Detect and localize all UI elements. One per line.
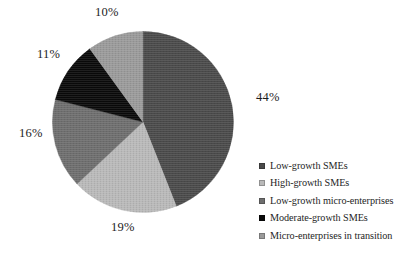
legend-item-label: Moderate-growth SMEs: [270, 213, 368, 223]
pie-slice-group: [52, 32, 233, 213]
legend-swatch-icon: [259, 198, 265, 204]
legend-item-moderate-growth-smes[interactable]: Moderate-growth SMEs: [259, 210, 409, 228]
chart-legend: Low-growth SMEs High-growth SMEs Low-gro…: [259, 157, 409, 245]
legend-item-low-growth-micro-enterprises[interactable]: Low-growth micro-enterprises: [259, 192, 409, 210]
pie-chart-figure: 44% 19% 16% 11% 10% Low-growth SMEs High…: [0, 0, 412, 253]
slice-label-moderate-growth-smes: 11%: [37, 48, 60, 61]
legend-item-label: Micro-enterprises in transition: [270, 231, 392, 241]
pie-svg: [52, 31, 234, 213]
legend-item-high-growth-smes[interactable]: High-growth SMEs: [259, 175, 409, 193]
legend-swatch-icon: [259, 233, 265, 239]
slice-label-low-growth-smes: 44%: [256, 91, 280, 104]
legend-swatch-icon: [259, 163, 265, 169]
legend-item-label: Low-growth micro-enterprises: [270, 196, 393, 206]
pie-chart-graphic: [52, 31, 234, 213]
legend-item-low-growth-smes[interactable]: Low-growth SMEs: [259, 157, 409, 175]
slice-label-micro-enterprises-in-transition: 10%: [95, 6, 119, 19]
legend-swatch-icon: [259, 180, 265, 186]
legend-item-label: Low-growth SMEs: [270, 161, 348, 171]
legend-item-label: High-growth SMEs: [270, 178, 349, 188]
slice-label-high-growth-smes: 19%: [111, 221, 135, 234]
legend-swatch-icon: [259, 215, 265, 221]
legend-item-micro-enterprises-in-transition[interactable]: Micro-enterprises in transition: [259, 227, 409, 245]
slice-label-low-growth-micro-enterprises: 16%: [19, 127, 43, 140]
